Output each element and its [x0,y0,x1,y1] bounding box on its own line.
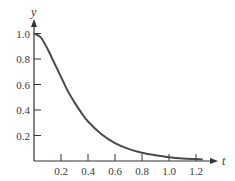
x-tick-label: 0.2 [54,165,68,177]
data-line [34,34,203,160]
x-tick-label: 0.6 [108,165,122,177]
x-tick-label: 1.2 [189,165,203,177]
y-tick-label: 0.2 [16,130,30,142]
x-axis-arrow-icon [210,158,218,164]
x-tick-label: 0.8 [135,165,149,177]
x-axis-label: t [222,154,226,168]
y-axis-arrow-icon [31,19,37,27]
y-axis-label: y [30,5,37,19]
y-tick-label: 0.8 [16,53,30,65]
x-tick-label: 1.0 [162,165,176,177]
y-ticks: 0.20.40.60.81.0 [16,28,41,142]
x-tick-label: 0.4 [81,165,95,177]
chart: 0.20.40.60.81.01.2 0.20.40.60.81.0 y t [0,0,235,181]
y-tick-label: 1.0 [16,28,30,40]
y-tick-label: 0.4 [16,104,30,116]
axes [31,19,218,164]
y-tick-label: 0.6 [16,79,30,91]
